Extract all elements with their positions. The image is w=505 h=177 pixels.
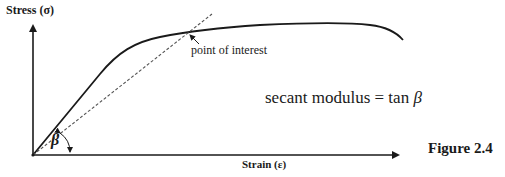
figure-caption: Figure 2.4 xyxy=(428,140,493,157)
angle-beta-label: β xyxy=(51,131,59,149)
y-axis-label: Stress (σ) xyxy=(6,3,54,18)
equation-text: secant modulus = tan xyxy=(265,88,413,107)
angle-arc xyxy=(60,133,70,152)
secant-modulus-equation: secant modulus = tan β xyxy=(265,88,422,108)
equation-beta-symbol: β xyxy=(413,88,421,107)
x-axis-label: Strain (ε) xyxy=(242,158,286,170)
secant-line xyxy=(33,14,212,155)
point-of-interest-label: point of interest xyxy=(191,43,267,58)
origin-point xyxy=(31,153,34,156)
